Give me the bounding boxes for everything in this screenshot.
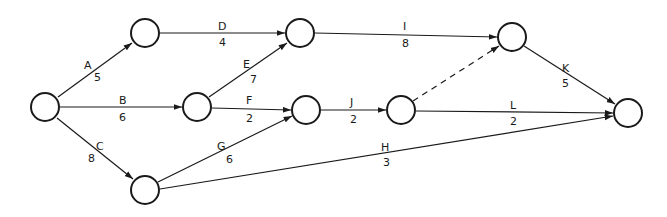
event-node-4 xyxy=(131,176,159,204)
event-node-9 xyxy=(614,99,642,127)
activity-k-name: K xyxy=(562,62,570,75)
activity-k-duration: 5 xyxy=(562,77,569,90)
activity-b-duration: 6 xyxy=(119,111,126,124)
activity-g-name: G xyxy=(217,140,226,153)
activity-h-name: H xyxy=(381,141,389,154)
activity-f-arrow xyxy=(212,108,291,110)
activity-a-name: A xyxy=(84,59,92,72)
activity-f-duration: 2 xyxy=(246,112,253,125)
event-node-2 xyxy=(131,19,159,47)
event-node-7 xyxy=(387,96,415,124)
activity-i-name: I xyxy=(403,20,406,33)
activity-c-duration: 8 xyxy=(88,152,95,165)
activity-f-name: F xyxy=(246,94,252,107)
event-node-5 xyxy=(286,19,314,47)
activity-b-name: B xyxy=(119,94,127,107)
activity-l-duration: 2 xyxy=(510,115,517,128)
event-node-6 xyxy=(292,96,320,124)
activity-g-duration: 6 xyxy=(226,153,233,166)
activity-k-arrow xyxy=(524,46,615,104)
activity-a-duration: 5 xyxy=(94,71,101,84)
activity-i-duration: 8 xyxy=(402,37,409,50)
activity-c-name: C xyxy=(96,140,104,153)
activity-c-arrow xyxy=(57,118,133,179)
network-diagram: A 5 B 6 C 8 D 4 E 7 F 2 G 6 H 3 I 8 J 2 … xyxy=(0,0,667,217)
activity-a-arrow xyxy=(58,43,132,97)
activity-j-name: J xyxy=(349,96,353,109)
activity-j-duration: 2 xyxy=(350,113,357,126)
activity-h-duration: 3 xyxy=(383,156,390,169)
activity-l-name: L xyxy=(510,99,517,112)
dummy-activity-arrow xyxy=(413,46,499,101)
activity-d-duration: 4 xyxy=(219,36,226,49)
event-node-3 xyxy=(183,93,211,121)
event-node-1 xyxy=(31,93,59,121)
activity-d-name: D xyxy=(218,20,226,33)
event-node-8 xyxy=(498,23,526,51)
activity-e-duration: 7 xyxy=(250,73,257,86)
activity-e-name: E xyxy=(243,58,250,71)
